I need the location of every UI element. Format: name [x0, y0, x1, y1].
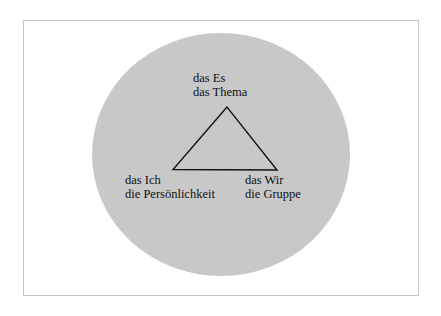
node-top-line2: das Thema: [193, 85, 247, 99]
node-label-ich-persoenlichkeit: das Ich die Persönlichkeit: [125, 173, 215, 201]
node-label-wir-gruppe: das Wir die Gruppe: [245, 173, 301, 201]
node-left-line1: das Ich: [125, 173, 215, 187]
node-left-line2: die Persönlichkeit: [125, 187, 215, 201]
node-right-line2: die Gruppe: [245, 187, 301, 201]
background-circle: [92, 33, 350, 276]
node-top-line1: das Es: [193, 71, 247, 85]
node-right-line1: das Wir: [245, 173, 301, 187]
node-label-es-thema: das Es das Thema: [193, 71, 247, 99]
